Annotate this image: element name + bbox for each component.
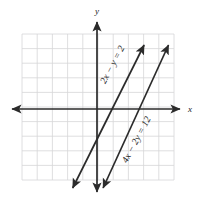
x-axis-label: x xyxy=(187,104,192,114)
y-axis-label: y xyxy=(94,6,99,16)
equation-label-line-1: 2x − y = 2 xyxy=(98,44,126,85)
graph-figure: x y 2x − y = 2 4x − 2y = 12 xyxy=(0,0,203,201)
coordinate-plane: x y 2x − y = 2 4x − 2y = 12 xyxy=(0,0,203,201)
grid-lines xyxy=(22,34,174,180)
